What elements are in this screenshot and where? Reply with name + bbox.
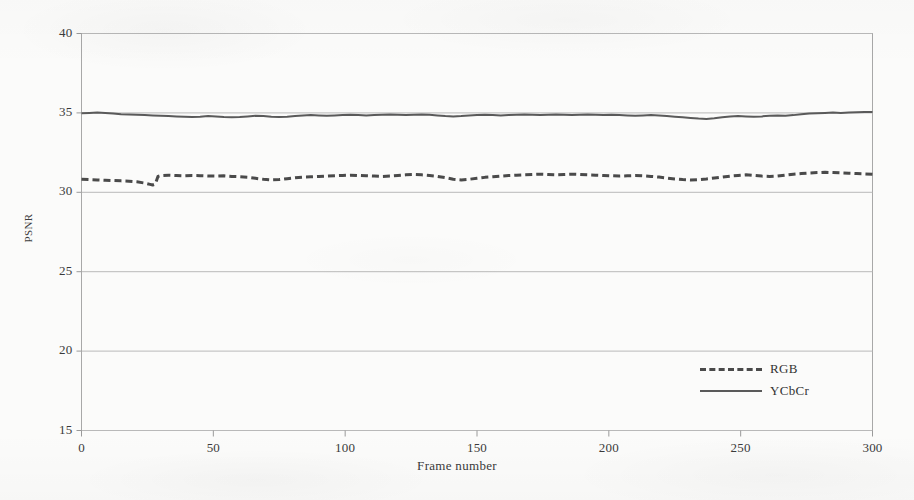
legend-label-ycbcr: YCbCr [770,383,809,399]
chart-legend: RGB YCbCr [700,358,870,402]
legend-item-rgb: RGB [700,358,870,380]
y-tick-label: 15 [33,422,73,438]
y-tick-label: 30 [33,183,73,199]
x-tick-label: 100 [315,440,375,456]
legend-swatch-solid-icon [700,386,762,396]
y-axis-ticks [77,34,82,431]
x-axis-ticks [82,431,873,437]
x-tick-label: 150 [447,440,507,456]
x-axis-title: Frame number [0,458,914,474]
y-tick-label: 20 [33,342,73,358]
x-tick-label: 50 [183,440,243,456]
x-tick-label: 0 [52,440,112,456]
y-tick-label: 40 [33,25,73,41]
y-tick-label: 35 [33,104,73,120]
y-tick-label: 25 [33,263,73,279]
y-axis-title: PSNR [22,198,34,258]
x-tick-label: 300 [843,440,903,456]
legend-item-ycbcr: YCbCr [700,380,870,402]
x-tick-label: 250 [711,440,771,456]
chart-page: 152025303540 050100150200250300 PSNR Fra… [0,0,914,500]
x-tick-label: 200 [579,440,639,456]
psnr-line-chart [0,0,914,500]
series-layer [82,112,873,185]
legend-label-rgb: RGB [770,361,798,377]
legend-swatch-dashed-icon [700,364,762,374]
series-line-rgb [82,172,873,185]
